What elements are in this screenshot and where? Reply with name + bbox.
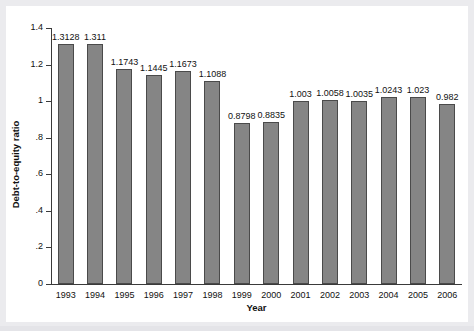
bar-value-label: 1.311 — [84, 32, 106, 42]
bar-value-label: 1.1445 — [140, 63, 168, 73]
x-tick-label: 2003 — [349, 290, 369, 300]
y-tick-mark — [46, 174, 51, 175]
bar-value-label: 1.0035 — [345, 89, 373, 99]
y-tick-mark — [46, 28, 51, 29]
bar-value-label: 1.023 — [407, 85, 430, 95]
x-tick-label: 2005 — [408, 290, 428, 300]
x-tick-label: 1995 — [114, 290, 134, 300]
x-tick-label: 2001 — [291, 290, 311, 300]
bar-value-label: 0.8835 — [257, 110, 285, 120]
y-tick-label: .4 — [11, 205, 43, 215]
x-tick-label: 2002 — [320, 290, 340, 300]
bar — [410, 97, 426, 284]
bar — [381, 97, 397, 284]
y-tick-mark — [46, 284, 51, 285]
y-axis-title: Debt-to-equity ratio — [8, 6, 24, 322]
x-tick-label: 1999 — [232, 290, 252, 300]
x-tick-label: 2006 — [437, 290, 457, 300]
y-tick-mark — [46, 247, 51, 248]
bar — [293, 101, 309, 284]
y-tick-mark — [46, 65, 51, 66]
y-tick-label: 1.4 — [11, 22, 43, 32]
bar — [234, 123, 250, 284]
page-bottom-strip — [0, 326, 474, 331]
bar — [87, 44, 103, 284]
x-axis-line — [51, 284, 462, 285]
x-tick-label: 2004 — [379, 290, 399, 300]
bar — [439, 104, 455, 284]
bar-value-label: 1.1743 — [111, 57, 139, 67]
bar — [351, 101, 367, 284]
bar-value-label: 1.003 — [289, 89, 312, 99]
x-tick-label: 2000 — [261, 290, 281, 300]
bar — [263, 122, 279, 284]
x-tick-label: 1994 — [85, 290, 105, 300]
y-tick-mark — [46, 138, 51, 139]
y-tick-label: 1 — [11, 95, 43, 105]
y-tick-label: 1.2 — [11, 59, 43, 69]
chart-canvas: Debt-to-equity ratio 0.2.4.6.811.21.4 1.… — [6, 6, 468, 322]
y-tick-mark — [46, 211, 51, 212]
x-tick-label: 1997 — [173, 290, 193, 300]
x-axis-title: Year — [51, 302, 462, 313]
bar-value-label: 0.982 — [436, 92, 459, 102]
bar — [175, 71, 191, 284]
bar — [58, 44, 74, 284]
y-tick-label: 0 — [11, 278, 43, 288]
bar — [322, 100, 338, 284]
y-tick-label: .8 — [11, 132, 43, 142]
bar — [146, 75, 162, 284]
x-tick-label: 1998 — [202, 290, 222, 300]
bar-value-label: 1.1088 — [199, 69, 227, 79]
bar-value-label: 1.0243 — [375, 85, 403, 95]
x-tick-label: 1993 — [56, 290, 76, 300]
bar-value-label: 1.3128 — [52, 32, 80, 42]
bar — [204, 81, 220, 284]
bar-value-label: 0.8798 — [228, 111, 256, 121]
y-axis-line — [51, 28, 52, 285]
y-tick-label: .6 — [11, 168, 43, 178]
y-tick-mark — [46, 101, 51, 102]
plot-area: 0.2.4.6.811.21.4 1.31281.3111.17431.1445… — [51, 28, 462, 284]
y-tick-label: .2 — [11, 241, 43, 251]
x-tick-label: 1996 — [144, 290, 164, 300]
bar — [116, 69, 132, 284]
bar-value-label: 1.1673 — [169, 59, 197, 69]
chart-screenshot: Debt-to-equity ratio 0.2.4.6.811.21.4 1.… — [0, 0, 474, 331]
bar-value-label: 1.0058 — [316, 88, 344, 98]
